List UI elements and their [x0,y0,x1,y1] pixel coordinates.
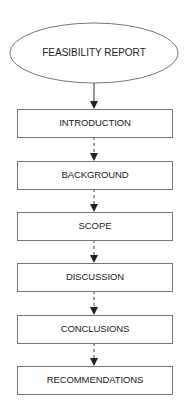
step-label: SCOPE [17,220,173,231]
arrowhead-icon [90,101,98,109]
step-label: INTRODUCTION [17,117,173,128]
step-label: CONCLUSIONS [17,323,173,334]
step-label: BACKGROUND [17,169,173,180]
step-label: RECOMMENDATIONS [17,374,173,385]
start-label: FEASIBILITY REPORT [10,47,178,58]
flowchart-canvas [0,0,186,412]
step-label: DISCUSSION [17,271,173,282]
